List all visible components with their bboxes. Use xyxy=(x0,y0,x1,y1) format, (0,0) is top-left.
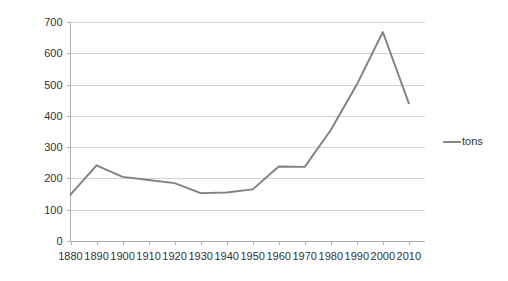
x-axis-tick-label: 1910 xyxy=(136,250,160,262)
chart-legend: tons xyxy=(443,135,483,147)
y-axis-tick-label: 100 xyxy=(44,204,62,216)
y-axis-tick-label: 0 xyxy=(56,235,62,247)
x-axis-tick-label: 1950 xyxy=(240,250,264,262)
x-axis-tick-label: 1930 xyxy=(188,250,212,262)
x-axis-tick-label: 1980 xyxy=(319,250,343,262)
y-axis-tick-label: 500 xyxy=(44,79,62,91)
line-chart: 0100200300400500600700 18801890190019101… xyxy=(0,0,508,281)
y-axis-tick-label: 300 xyxy=(44,141,62,153)
x-axis-tick-label: 1890 xyxy=(84,250,108,262)
y-axis-tick-label: 600 xyxy=(44,47,62,59)
x-axis-tick-labels: 1880189019001910192019301940195019601970… xyxy=(58,250,421,262)
chart-canvas: 0100200300400500600700 18801890190019101… xyxy=(0,0,508,281)
x-axis-tick-label: 1990 xyxy=(345,250,369,262)
series-line-tons xyxy=(71,32,409,195)
legend-label-tons: tons xyxy=(462,135,483,147)
x-axis-tick-label: 1960 xyxy=(266,250,290,262)
x-axis-tick-label: 2010 xyxy=(397,250,421,262)
x-axis-tick-label: 1970 xyxy=(293,250,317,262)
x-axis-tick-label: 1900 xyxy=(110,250,134,262)
x-axis-tick-label: 2000 xyxy=(371,250,395,262)
y-axis-tick-label: 200 xyxy=(44,172,62,184)
x-axis-tick-label: 1940 xyxy=(214,250,238,262)
y-axis-tick-label: 700 xyxy=(44,16,62,28)
x-axis-tick-label: 1880 xyxy=(58,250,82,262)
y-axis-tick-labels: 0100200300400500600700 xyxy=(44,16,70,247)
x-axis-tick-label: 1920 xyxy=(162,250,186,262)
y-axis-tick-label: 400 xyxy=(44,110,62,122)
data-series-group xyxy=(71,32,409,195)
